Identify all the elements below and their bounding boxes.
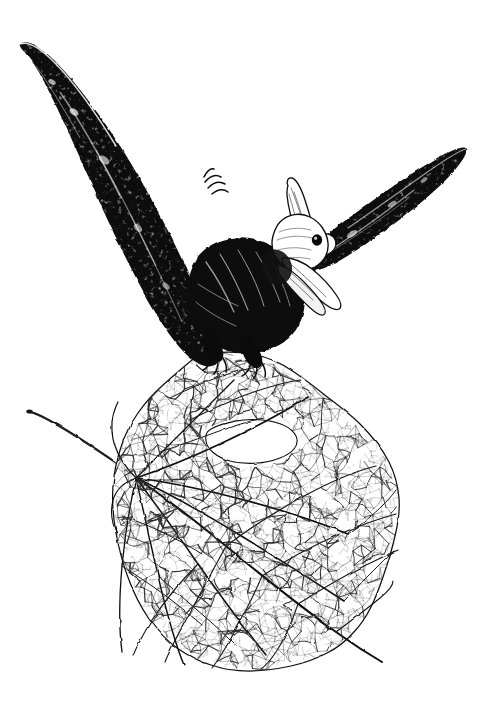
eye bbox=[312, 234, 322, 246]
leaf-hole bbox=[206, 419, 297, 463]
artwork-canvas: A black ink drawing of a pterosaur with … bbox=[0, 0, 479, 724]
eye-glint bbox=[314, 237, 317, 240]
illustration-svg bbox=[0, 0, 479, 724]
